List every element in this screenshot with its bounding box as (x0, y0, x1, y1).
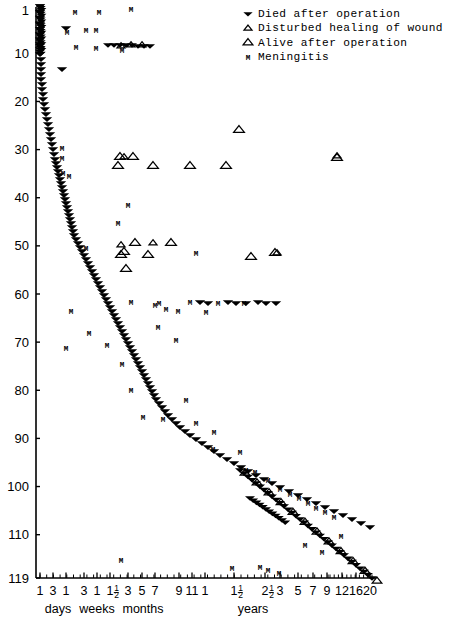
meningitis-marker: M (303, 542, 308, 550)
meningitis-marker: M (297, 495, 302, 503)
meningitis-marker: M (129, 299, 134, 307)
x-axis-group-label: months (123, 602, 164, 616)
y-axis-tick-label: 119 (8, 571, 29, 586)
svg-text:1: 1 (107, 584, 114, 598)
meningitis-marker: M (216, 300, 221, 308)
meningitis-marker: M (184, 397, 189, 405)
svg-text:2: 2 (269, 590, 274, 600)
x-axis-group-label: weeks (78, 602, 114, 616)
svg-text:12: 12 (335, 584, 349, 598)
y-axis-tick-label: 90 (15, 431, 29, 446)
legend-entry: Died after operation (243, 8, 400, 20)
y-axis-tick-label: 80 (15, 383, 29, 398)
meningitis-marker: M (116, 220, 121, 228)
meningitis-marker: M (253, 469, 258, 477)
meningitis-marker: M (306, 500, 311, 508)
y-axis-tick-label: 40 (15, 190, 29, 205)
svg-text:7: 7 (152, 584, 159, 598)
svg-text:1: 1 (231, 584, 238, 598)
svg-text:16: 16 (349, 584, 363, 598)
svg-text:7: 7 (310, 584, 317, 598)
svg-text:1: 1 (37, 584, 44, 598)
svg-text:5: 5 (139, 584, 146, 598)
meningitis-marker: M (266, 477, 271, 485)
meningitis-marker: M (288, 491, 293, 499)
legend-entry: Disturbed healing of wound (244, 22, 443, 34)
legend-entry: Alive after operation (243, 37, 407, 49)
x-axis-group-label: days (45, 602, 71, 616)
x-axis-tick-label: 112 (231, 583, 244, 600)
svg-text:3: 3 (125, 584, 132, 598)
meningitis-marker: M (126, 202, 131, 210)
meningitis-marker: M (97, 9, 102, 17)
meningitis-marker: M (238, 449, 243, 457)
y-axis-tick-label: 10 (15, 46, 29, 61)
x-axis-tick-label: 3 (125, 584, 132, 598)
meningitis-marker: M (60, 145, 65, 153)
x-axis-tick-label: 11 (186, 584, 199, 598)
meningitis-marker: M (211, 446, 216, 454)
svg-text:3: 3 (50, 584, 57, 598)
meningitis-marker: M (212, 429, 217, 437)
x-axis-tick-label: 16 (349, 584, 363, 598)
chart-background (0, 0, 454, 636)
y-axis-tick-label: 1 (22, 3, 29, 18)
y-axis-tick-label: 60 (15, 287, 29, 302)
meningitis-marker: M (188, 299, 193, 307)
x-axis-tick-label: 9 (324, 584, 331, 598)
legend-label: Disturbed healing of wound (258, 22, 443, 34)
svg-text:11: 11 (186, 584, 199, 598)
y-axis-tick-label: 20 (15, 94, 29, 109)
y-axis-tick-label: 30 (15, 142, 29, 157)
legend-label: Died after operation (258, 8, 400, 20)
svg-text:1: 1 (94, 584, 101, 598)
x-axis-tick-label: 7 (152, 584, 159, 598)
meningitis-marker: M (84, 245, 89, 253)
chart-root: 1102030405060708090100110119131311123579… (0, 0, 454, 636)
x-axis-tick-label: 20 (363, 584, 377, 598)
meningitis-marker: M (278, 486, 283, 494)
meningitis-marker: M (266, 567, 271, 575)
x-axis-tick-label: 1 (202, 584, 209, 598)
meningitis-marker: M (129, 387, 134, 395)
meningitis-marker: M (157, 300, 162, 308)
meningitis-marker: M (120, 361, 125, 369)
x-axis-tick-label: 112 (107, 583, 120, 600)
x-axis-tick-label: 7 (310, 584, 317, 598)
meningitis-marker: M (67, 173, 72, 181)
meningitis-marker: M (339, 533, 344, 541)
legend-label: Meningitis (258, 51, 329, 63)
meningitis-marker: M (65, 29, 70, 37)
x-axis-tick-label: 3 (81, 584, 88, 598)
meningitis-marker: M (156, 324, 161, 332)
survival-scatter-chart: 1102030405060708090100110119131311123579… (0, 0, 454, 636)
svg-text:1: 1 (202, 584, 209, 598)
x-axis-tick-label: 3 (277, 584, 284, 598)
x-axis-tick-label: 12 (335, 584, 349, 598)
meningitis-marker: M (141, 414, 146, 422)
x-axis-tick-label: 1 (37, 584, 44, 598)
meningitis-marker: M (230, 565, 235, 573)
meningitis-marker: M (61, 170, 66, 178)
x-axis-tick-label: 5 (295, 584, 302, 598)
svg-text:3: 3 (277, 584, 284, 598)
meningitis-marker: M (174, 337, 179, 345)
x-axis-tick-label: 3 (50, 584, 57, 598)
meningitis-marker-icon: M (246, 54, 251, 62)
meningitis-marker: M (314, 505, 319, 513)
svg-text:9: 9 (176, 584, 183, 598)
x-axis-tick-label: 1 (63, 584, 70, 598)
svg-text:20: 20 (363, 584, 377, 598)
meningitis-marker: M (320, 549, 325, 557)
meningitis-marker: M (176, 308, 181, 316)
svg-text:2: 2 (238, 590, 243, 600)
meningitis-marker: M (161, 416, 166, 424)
meningitis-marker: M (94, 27, 99, 35)
meningitis-marker: M (120, 47, 125, 55)
meningitis-marker: M (74, 44, 79, 52)
svg-text:2: 2 (114, 590, 119, 600)
x-axis-tick-label: 1 (94, 584, 101, 598)
meningitis-marker: M (194, 250, 199, 258)
meningitis-marker: M (332, 514, 337, 522)
meningitis-marker: M (105, 342, 110, 350)
